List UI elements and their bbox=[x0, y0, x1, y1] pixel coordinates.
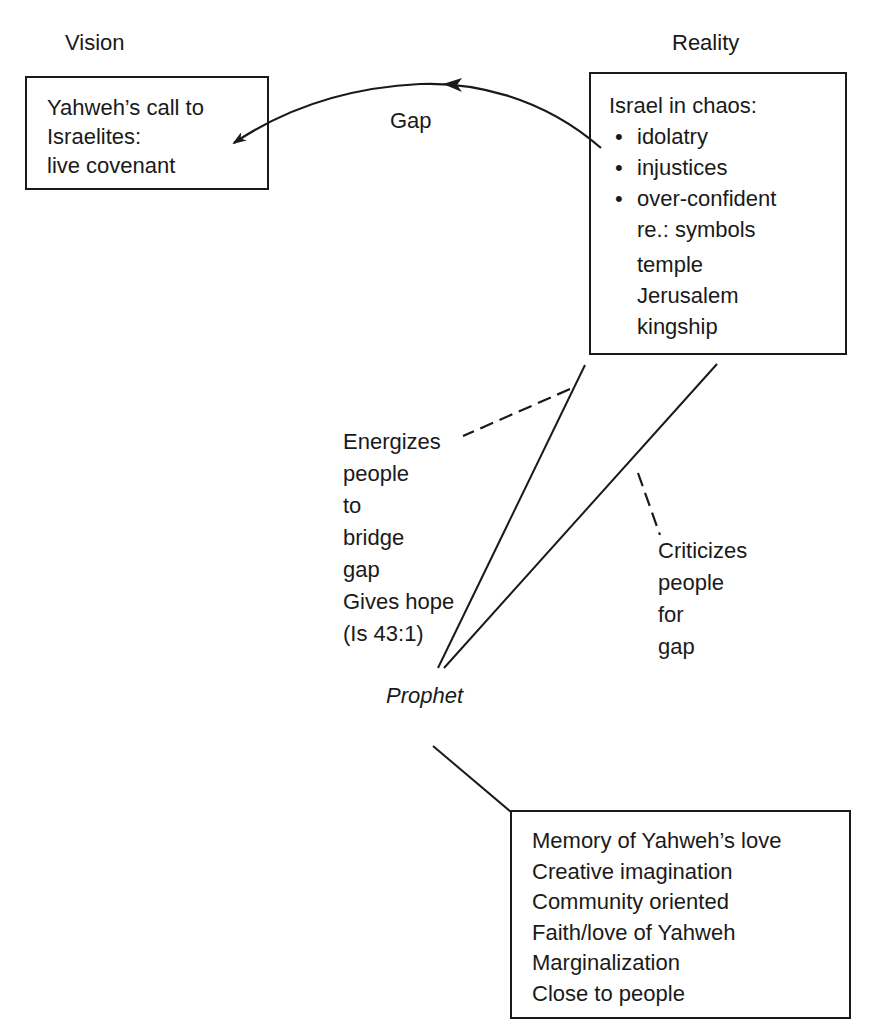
reality-symbol: temple bbox=[609, 249, 845, 280]
prophet-diagram: Vision Reality Yahweh’s call to Israelit… bbox=[0, 0, 877, 1036]
vision-box: Yahweh’s call to Israelites: live covena… bbox=[25, 76, 269, 190]
prophet-to-traits-line bbox=[433, 746, 511, 812]
prophet-label: Prophet bbox=[386, 683, 463, 709]
reality-symbol: kingship bbox=[609, 311, 845, 342]
prophet-to-reality-line-left bbox=[438, 365, 585, 668]
bullet-text: over-confident bbox=[637, 186, 776, 211]
trait-item: Memory of Yahweh’s love bbox=[532, 826, 849, 857]
annotation-line: people bbox=[343, 458, 454, 490]
annotation-line: to bbox=[343, 490, 454, 522]
bullet-icon: • bbox=[615, 152, 637, 183]
bullet-icon: • bbox=[615, 121, 637, 152]
annotation-line: Energizes bbox=[343, 426, 454, 458]
reality-continuation: re.: symbols bbox=[609, 214, 845, 245]
trait-item: Close to people bbox=[532, 979, 849, 1010]
vision-line: Yahweh’s call to bbox=[47, 93, 267, 122]
trait-item: Marginalization bbox=[532, 948, 849, 979]
bullet-text: injustices bbox=[637, 155, 727, 180]
vision-line: live covenant bbox=[47, 151, 267, 180]
trait-item: Community oriented bbox=[532, 887, 849, 918]
reality-box: Israel in chaos: •idolatry •injustices •… bbox=[589, 72, 847, 355]
bullet-text: idolatry bbox=[637, 124, 708, 149]
annotation-line: gap bbox=[658, 631, 747, 663]
trait-item: Creative imagination bbox=[532, 857, 849, 888]
reality-bullet-item: •injustices bbox=[609, 152, 845, 183]
vision-heading: Vision bbox=[65, 30, 125, 56]
reality-bullet-item: •over-confident bbox=[609, 183, 845, 214]
annotation-line: Criticizes bbox=[658, 535, 747, 567]
energizes-annotation: Energizes people to bridge gap Gives hop… bbox=[343, 426, 454, 650]
gap-label: Gap bbox=[390, 108, 432, 134]
reality-heading: Reality bbox=[672, 30, 739, 56]
criticizes-annotation: Criticizes people for gap bbox=[658, 535, 747, 663]
annotation-line: for bbox=[658, 599, 747, 631]
annotation-line: gap bbox=[343, 554, 454, 586]
reality-symbol: Jerusalem bbox=[609, 280, 845, 311]
bullet-icon: • bbox=[615, 183, 637, 214]
annotation-line: Gives hope bbox=[343, 586, 454, 618]
annotation-line: people bbox=[658, 567, 747, 599]
criticizes-leader-dashed bbox=[638, 473, 660, 535]
prophet-traits-box: Memory of Yahweh’s love Creative imagina… bbox=[510, 810, 851, 1019]
vision-line: Israelites: bbox=[47, 122, 267, 151]
annotation-line: bridge bbox=[343, 522, 454, 554]
trait-item: Faith/love of Yahweh bbox=[532, 918, 849, 949]
reality-bullet-item: •idolatry bbox=[609, 121, 845, 152]
reality-heading-line: Israel in chaos: bbox=[609, 90, 845, 121]
annotation-line: (Is 43:1) bbox=[343, 618, 454, 650]
